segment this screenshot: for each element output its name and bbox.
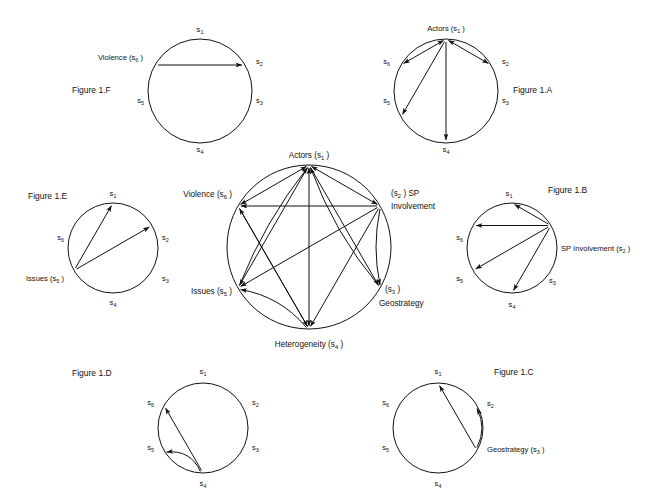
- node-label-s1: s1: [506, 189, 513, 199]
- figure-caption: Figure 1.F: [72, 85, 111, 95]
- node-label-s2: s2: [487, 399, 494, 409]
- edge-s2-to-s3: [376, 209, 380, 285]
- node-label-s4: s4: [200, 479, 207, 489]
- cycle-circle: [393, 383, 483, 473]
- fig-1-center: Actors (s1 )(s2 ) SPInvolvement(s3 )Geos…: [183, 151, 436, 350]
- edge-s1-to-s6: [241, 167, 307, 205]
- fig-1e: s1s2s3s4Issues (s5 )s6Figure 1.E: [26, 189, 169, 308]
- node-label-s3: (s3 ): [385, 285, 400, 295]
- node-label-s4: s4: [197, 145, 204, 155]
- node-label-s6: s6: [456, 233, 463, 243]
- node-label-s3: s3: [162, 274, 169, 284]
- node-label-s6: Violence (s6 ): [98, 53, 144, 63]
- node-label-s4: s4: [443, 145, 450, 155]
- fig-1a: Actors (s1 )s2s3s4s5s6Figure 1.A: [383, 24, 552, 155]
- figure-caption: Figure 1.B: [548, 185, 588, 195]
- node-label-s3: s3: [549, 276, 556, 286]
- figure-caption: Figure 1.E: [28, 191, 68, 201]
- edge-s4-to-s5: [241, 290, 307, 328]
- node-label-s3: s3: [502, 96, 509, 106]
- edge-s4-to-s6: [166, 408, 202, 470]
- node-label-s5: s5: [383, 96, 390, 106]
- node-label-s1: s1: [435, 367, 442, 377]
- figure-caption: Figure 1.D: [72, 368, 112, 378]
- node-label-s6: Violence (s6 ): [183, 190, 232, 200]
- edge-s1-to-s2: [312, 167, 378, 205]
- figure-caption: Figure 1.A: [513, 85, 553, 95]
- node-label-s6: s6: [147, 398, 154, 408]
- node-label-s5: Issues (s5 ): [191, 287, 232, 297]
- node-label-s1: Actors (s1 ): [289, 151, 330, 161]
- node-label-s5: Issues (s5 ): [26, 274, 65, 284]
- node-label-s5: s5: [147, 443, 154, 453]
- cycle-circle: [148, 39, 252, 143]
- node-label-s5: s5: [382, 443, 389, 453]
- node-label-s3: s3: [256, 96, 263, 106]
- fig-1d: s1s2s3s4s5s6Figure 1.D: [72, 367, 259, 489]
- node-label-s1: Actors (s1 ): [427, 24, 465, 34]
- diagram-canvas: s1s2s3s4s5Violence (s6 )Figure 1.FActors…: [0, 0, 660, 501]
- node-label-s1: s1: [110, 189, 117, 199]
- edge-s2-to-s4: [514, 228, 550, 290]
- fig-1b: s1SP Involvement (s2 )s3s4s5s6Figure 1.B: [456, 185, 630, 310]
- edge-s5-to-s1: [76, 206, 112, 268]
- node-label-s2: SP Involvement (s2 ): [561, 244, 631, 254]
- cycle-circle: [158, 383, 248, 473]
- node-label-s2: s2: [502, 57, 509, 67]
- node-label-s2b: Involvement: [391, 202, 436, 211]
- node-label-s4: Heterogeneity (s4 ): [275, 340, 344, 350]
- node-label-s5: s5: [456, 274, 463, 284]
- node-label-s6: s6: [382, 398, 389, 408]
- edge-s3-to-s1: [440, 386, 476, 448]
- node-label-s4: s4: [435, 479, 442, 489]
- figure-caption: Figure 1.C: [494, 367, 534, 377]
- fig-1f: s1s2s3s4s5Violence (s6 )Figure 1.F: [72, 25, 263, 155]
- node-label-s6: s6: [383, 57, 390, 67]
- node-label-s2: s2: [256, 57, 263, 67]
- node-label-s3: Geostrategy (s3 ): [487, 445, 545, 455]
- node-label-s3: s3: [252, 443, 259, 453]
- node-label-s5: s5: [137, 96, 144, 106]
- node-label-s4: s4: [110, 298, 117, 308]
- node-label-s2: s2: [162, 233, 169, 243]
- node-label-s4: s4: [509, 300, 516, 310]
- node-label-s1: s1: [200, 367, 207, 377]
- figure-1-digraph-set: s1s2s3s4s5Violence (s6 )Figure 1.FActors…: [0, 0, 660, 501]
- node-label-s2: s2: [252, 398, 259, 408]
- node-label-s1: s1: [197, 25, 204, 35]
- node-label-s6: s6: [57, 233, 64, 243]
- node-label-s2: (s2 ) SP: [391, 189, 420, 199]
- fig-1c: s1s2Geostrategy (s3 )s4s5s6Figure 1.C: [382, 367, 545, 489]
- node-label-s3b: Geostrategy: [379, 299, 425, 308]
